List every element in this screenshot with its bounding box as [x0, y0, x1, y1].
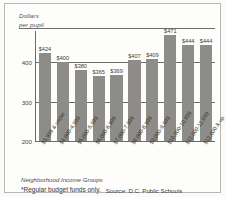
footnote-text: *Regular budget funds only.	[21, 186, 101, 193]
chart-frame: Dollars per pupil 400 300 200 $424	[4, 3, 221, 193]
bar-value-label: $444	[200, 38, 212, 44]
bar-value-label: $407	[128, 53, 140, 59]
x-axis-tick-labels: $3,999 & under $4,000-4,999 $5,000-5,999…	[36, 142, 215, 178]
bar-value-label: $471	[164, 28, 176, 34]
chart-footer: Neighborhood Income Groups *Regular budg…	[21, 176, 217, 195]
source-note: *Regular budget funds only.Source: D.C. …	[21, 185, 217, 195]
y-tick-label-400: 400	[22, 59, 32, 66]
x-axis-title: Neighborhood Income Groups	[21, 176, 217, 184]
y-axis-title: Dollars per pupil	[19, 11, 44, 29]
bar-value-label: $400	[57, 55, 69, 61]
bar-value-label: $444	[182, 38, 194, 44]
figure-bar-chart-spending-per-pupil: Dollars per pupil 400 300 200 $424	[0, 0, 226, 197]
bar-9: $444	[182, 45, 194, 141]
y-tick-label-300: 300	[22, 98, 32, 105]
top-rule	[19, 28, 215, 29]
bar-value-label: $424	[39, 46, 51, 52]
source-text: Source: D.C. Public Schools	[106, 187, 183, 194]
bar-value-label: $369	[110, 68, 122, 74]
y-axis-title-line1: Dollars	[19, 11, 44, 20]
y-tick-label-200: 200	[22, 138, 32, 145]
bar-10: $444	[200, 45, 212, 141]
bar-value-label: $380	[75, 63, 87, 69]
bar-value-label: $365	[92, 69, 104, 75]
bar-value-label: $409	[146, 52, 158, 58]
